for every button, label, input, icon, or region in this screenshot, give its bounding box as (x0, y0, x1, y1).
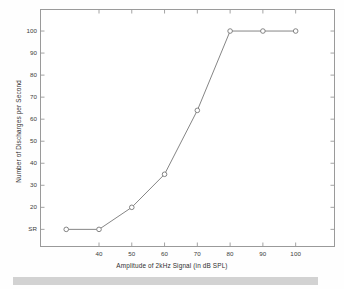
x-tick-label: 90 (259, 251, 266, 257)
y-tick-label: 40 (30, 160, 37, 166)
data-point-marker (261, 29, 266, 34)
y-tick-label: 100 (26, 28, 37, 34)
y-tick-label: SR (28, 226, 37, 232)
data-point-marker (97, 227, 102, 232)
x-tick-label: 80 (227, 251, 234, 257)
y-tick-label: 50 (30, 138, 37, 144)
x-tick-label: 70 (194, 251, 201, 257)
y-tick-label: 90 (30, 50, 37, 56)
x-tick-label: 50 (128, 251, 135, 257)
x-axis-title: Amplitude of 2kHz Signal (in dB SPL) (0, 262, 344, 269)
y-tick-label: 80 (30, 72, 37, 78)
data-point-marker (228, 29, 233, 34)
y-tick-label: 20 (30, 204, 37, 210)
footer-band (13, 277, 318, 285)
data-point-marker (162, 172, 167, 177)
data-point-marker (129, 205, 134, 210)
data-point-marker (195, 108, 200, 113)
figure-canvas: Number of Discharges per Second SR203040… (0, 0, 344, 289)
data-point-marker (64, 227, 69, 232)
x-tick-label: 40 (95, 251, 102, 257)
data-series-line (40, 9, 335, 247)
x-tick-label: 100 (290, 251, 301, 257)
y-tick-label: 70 (30, 94, 37, 100)
x-tick-label: 60 (161, 251, 168, 257)
y-tick-label: 60 (30, 116, 37, 122)
y-axis-tick-labels: SR2030405060708090100 (0, 0, 37, 289)
data-point-marker (293, 29, 298, 34)
y-tick-label: 30 (30, 182, 37, 188)
